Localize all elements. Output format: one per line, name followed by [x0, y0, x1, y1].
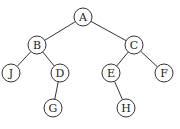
tree-nodes: ABCJDEFGH — [2, 8, 173, 117]
node-label: D — [56, 67, 65, 80]
tree-edges — [17, 21, 157, 99]
binary-tree-diagram: ABCJDEFGH — [0, 0, 180, 129]
node-label: C — [130, 39, 138, 52]
edge-a-c — [91, 21, 126, 40]
node-f: F — [155, 64, 173, 82]
node-label: B — [33, 39, 41, 52]
edge-a-b — [45, 22, 76, 41]
node-label: E — [107, 67, 115, 80]
edge-d-g — [55, 82, 58, 99]
node-a: A — [74, 8, 92, 26]
edge-b-j — [17, 52, 31, 67]
edge-b-d — [43, 52, 55, 66]
node-label: A — [78, 11, 88, 24]
node-e: E — [102, 64, 120, 82]
node-label: H — [121, 102, 131, 115]
node-j: J — [2, 64, 20, 82]
node-b: B — [28, 36, 46, 54]
edge-c-f — [141, 51, 158, 67]
node-label: G — [49, 102, 58, 115]
node-g: G — [44, 99, 62, 117]
node-label: J — [8, 67, 13, 80]
node-c: C — [125, 36, 143, 54]
node-label: F — [160, 67, 168, 80]
edge-c-e — [117, 52, 129, 66]
node-h: H — [117, 99, 135, 117]
node-d: D — [51, 64, 69, 82]
edge-e-h — [115, 81, 123, 99]
